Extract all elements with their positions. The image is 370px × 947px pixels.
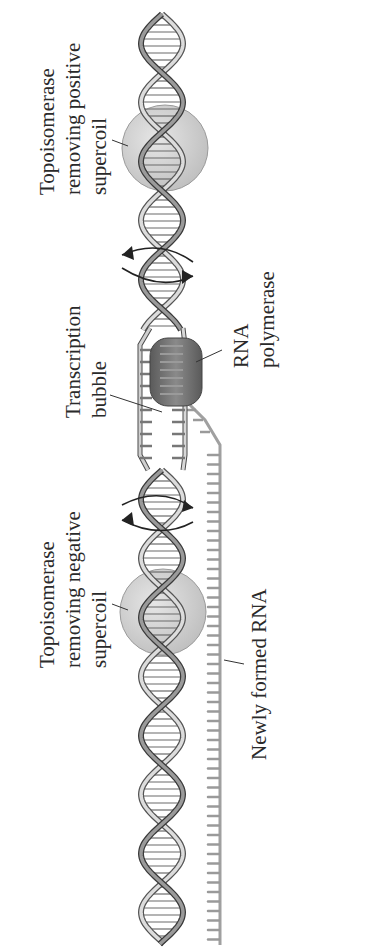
label-line: removing negative	[60, 511, 86, 668]
label-line: Newly formed RNA	[246, 589, 272, 760]
rna-strand	[186, 405, 220, 945]
label-line: Transcription	[60, 306, 86, 418]
label-topoisomerase-negative: Topoisomerase removing negative supercoi…	[34, 511, 112, 668]
label-rna-polymerase: RNA polymerase	[228, 271, 280, 368]
topoisomerase-positive-shape	[122, 105, 208, 191]
label-line: RNA	[228, 271, 254, 368]
label-line: removing positive	[60, 43, 86, 195]
rna-polymerase-shape	[150, 338, 202, 406]
label-line: supercoil	[86, 511, 112, 668]
label-line: Topoisomerase	[34, 511, 60, 668]
label-newly-formed-rna: Newly formed RNA	[246, 589, 272, 760]
diagram-stage: Topoisomerase removing positive supercoi…	[0, 0, 370, 947]
label-line: bubble	[86, 306, 112, 418]
label-transcription-bubble: Transcription bubble	[60, 306, 112, 418]
label-line: polymerase	[254, 271, 280, 368]
leader-rna	[224, 660, 244, 664]
label-line: Topoisomerase	[34, 43, 60, 195]
label-topoisomerase-positive: Topoisomerase removing positive supercoi…	[34, 43, 112, 195]
label-line: supercoil	[86, 43, 112, 195]
